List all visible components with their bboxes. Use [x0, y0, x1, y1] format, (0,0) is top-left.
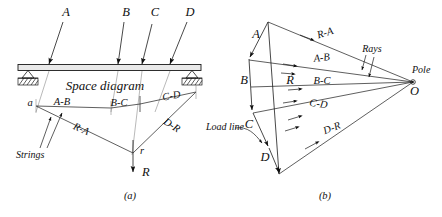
graphic-statics-figure: A B C D Space diagram — [0, 0, 442, 217]
funicular-point-r-label: r — [140, 145, 145, 156]
ray-label-ra: R-A — [315, 25, 335, 41]
rays-note-group: Rays — [361, 43, 382, 77]
ray-direction-arrows — [281, 35, 318, 149]
force-vertex-b: B — [240, 73, 248, 87]
funicular-resultant: r R — [133, 140, 150, 179]
ray-d-r — [279, 82, 413, 174]
ray-b-c — [251, 82, 413, 87]
load-arrow-b — [118, 22, 124, 64]
ray-c-d — [253, 82, 413, 113]
force-polygon-group: R A B C D R-A A-B B-C C-D — [205, 22, 431, 202]
ray-label-dr: D-R — [321, 119, 343, 136]
ray-label-ab: A-B — [312, 51, 331, 64]
string-label-cd: C-D — [161, 88, 181, 102]
space-diagram-group: A B C D Space diagram — [16, 5, 202, 202]
ray-label-cd: C-D — [309, 97, 329, 110]
pole-point-label: O — [410, 84, 419, 98]
rays-note-label: Rays — [361, 43, 382, 54]
caption-b: (b) — [319, 190, 332, 202]
beam — [18, 65, 201, 71]
strings-note-label: Strings — [16, 149, 44, 160]
load-arrow-d — [170, 22, 187, 64]
load-line-note-label-1: Load line — [205, 121, 245, 132]
space-diagram-title: Space diagram — [66, 78, 144, 93]
string-label-bc: B-C — [111, 97, 129, 108]
force-vertex-a: A — [251, 27, 260, 41]
force-resultant: R — [268, 22, 294, 174]
string-label-ra: R-A — [71, 120, 92, 137]
strings-note-group: Strings — [16, 113, 62, 160]
load-label-b: B — [122, 5, 130, 19]
support-right — [182, 71, 202, 86]
load-arrow-a — [49, 22, 63, 64]
string-label-ab: A-B — [53, 96, 71, 107]
force-resultant-label: R — [285, 73, 294, 87]
force-vertex-d: D — [259, 150, 269, 164]
string-label-dr: D-R — [161, 115, 183, 135]
load-arrow-c — [142, 24, 152, 64]
support-left — [18, 71, 38, 86]
load-label-a: A — [61, 5, 70, 19]
ray-a-b — [249, 60, 413, 82]
pole: Pole O — [410, 64, 431, 98]
load-line-note-group: Load line — [205, 121, 262, 143]
ray-label-bc: B-C — [314, 75, 332, 86]
load-label-d: D — [184, 5, 194, 19]
funicular-point-a-label: a — [27, 97, 32, 108]
pole-label: Pole — [411, 64, 431, 75]
caption-a: (a) — [124, 190, 137, 202]
load-label-c: C — [151, 5, 160, 19]
funicular-resultant-label: R — [141, 165, 150, 179]
